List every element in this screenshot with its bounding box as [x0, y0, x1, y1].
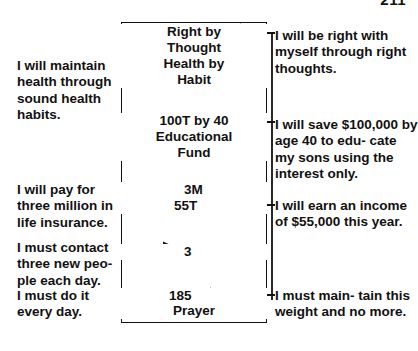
annotation-right-thoughts: I will be right with myself through righ… [275, 28, 418, 77]
goal-line-educational: Educational [121, 129, 267, 145]
scanned-page: 211 Right by Thought [0, 0, 418, 351]
goal-line-100t-by-40: 100T by 40 [121, 113, 267, 129]
annotation-life-insurance: I will pay for three million in life ins… [17, 182, 121, 231]
goal-line-habit: Habit [121, 72, 267, 88]
annotation-education-savings: I will save $100,000 by age 40 to edu- c… [275, 117, 418, 183]
annotation-contact-people: I must contact three new peo- ple each d… [17, 240, 121, 289]
goal-item-fifty-five-thousand: 55T [121, 198, 267, 214]
goal-item-one-eighty-five: 185 [121, 288, 267, 304]
goal-line-fund: Fund [121, 145, 267, 161]
annotation-prayer-daily: I must do it every day. [17, 288, 121, 321]
goal-line-right-by: Right by [121, 24, 267, 40]
annotation-maintain-health: I will maintain health through sound hea… [17, 58, 121, 124]
goal-item-three-people: 3 [121, 244, 267, 260]
goal-item-three-million: 3M [121, 182, 267, 198]
goal-line-health-by: Health by [121, 56, 267, 72]
annotation-weight-goal: I must main- tain this weight and no mor… [275, 288, 418, 321]
annotation-income-goal: I will earn an income of $55,000 this ye… [275, 198, 418, 231]
goal-item-right-by-thought: Right by Thought Health by Habit [121, 24, 267, 88]
goal-line-thought: Thought [121, 40, 267, 56]
goal-item-educational-fund: 100T by 40 Educational Fund [121, 113, 267, 161]
goal-item-prayer: Prayer [121, 303, 267, 319]
